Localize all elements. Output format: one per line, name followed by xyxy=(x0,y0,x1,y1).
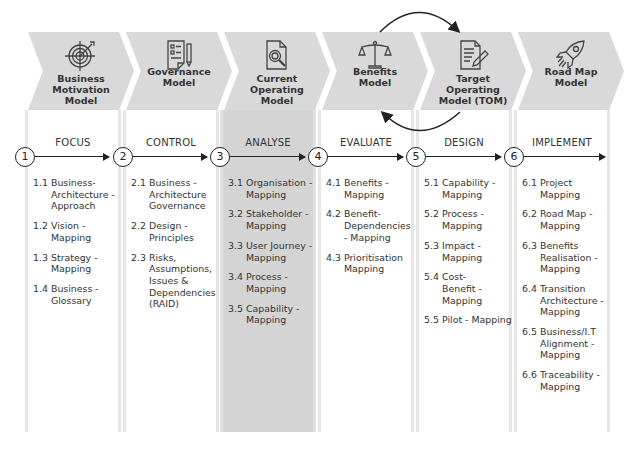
item-number: 4.3 xyxy=(326,252,344,275)
step-number-circle: 1 xyxy=(15,147,35,167)
item-number: 2.2 xyxy=(131,220,149,243)
item-list-control: 2.1Business - Architecture Governance 2.… xyxy=(131,177,221,318)
item-text: Organisation - Mapping xyxy=(246,177,318,200)
item-number: 5.2 xyxy=(424,208,442,231)
step-number-circle: 4 xyxy=(308,147,328,167)
flow-arrow xyxy=(35,156,109,157)
flow-arrow xyxy=(524,156,605,157)
list-item: 1.4Business - Glossary xyxy=(33,283,123,306)
list-item: 3.4Process - Mapping xyxy=(228,271,318,294)
stage-label-implement: IMPLEMENT xyxy=(514,137,610,148)
item-text: Transition Architecture - Mapping xyxy=(540,283,612,318)
item-number: 6.5 xyxy=(522,326,540,361)
list-item: 5.3Impact - Mapping xyxy=(424,240,514,263)
item-number: 6.3 xyxy=(522,240,540,275)
item-number: 1.4 xyxy=(33,283,51,306)
item-text: Impact - Mapping xyxy=(442,240,514,263)
item-list-focus: 1.1Business-Architecture - Approach 1.2V… xyxy=(33,177,123,314)
item-text: Traceability - Mapping xyxy=(540,369,612,392)
stage-label-analyse: ANALYSE xyxy=(220,137,316,148)
item-text: Business-Architecture - Approach xyxy=(51,177,123,212)
item-list-design: 5.1Capability - Mapping 5.2Process - Map… xyxy=(424,177,514,334)
item-list-analyse: 3.1Organisation - Mapping 3.2Stakeholder… xyxy=(228,177,318,334)
flow-arrow xyxy=(133,156,207,157)
list-item: 1.1Business-Architecture - Approach xyxy=(33,177,123,212)
framework-diagram: Business Motivation Model Governance Mod… xyxy=(0,0,629,454)
item-text: Prioritisation Mapping xyxy=(344,252,416,275)
list-item: 6.3Benefits Realisation - Mapping xyxy=(522,240,612,275)
stage-label-design: DESIGN xyxy=(416,137,512,148)
item-text: Risks, Assumptions, Issues & Dependencie… xyxy=(149,252,221,311)
item-text: Road Map - Mapping xyxy=(540,208,612,231)
list-item: 3.3User Journey - Mapping xyxy=(228,240,318,263)
list-item: 6.5Business/I.T Alignment - Mapping xyxy=(522,326,612,361)
list-item: 6.4Transition Architecture - Mapping xyxy=(522,283,612,318)
flow-arrow xyxy=(230,156,305,157)
item-number: 5.5 xyxy=(424,314,442,326)
step-number-circle: 3 xyxy=(210,147,230,167)
item-text: Process - Mapping xyxy=(442,208,514,231)
item-list-implement: 6.1Project Mapping 6.2Road Map - Mapping… xyxy=(522,177,612,401)
list-item: 6.1Project Mapping xyxy=(522,177,612,200)
flow-arrow xyxy=(328,156,403,157)
list-item: 2.3Risks, Assumptions, Issues & Dependen… xyxy=(131,252,221,311)
item-text: Capability - Mapping xyxy=(246,303,318,326)
list-item: 2.2Design - Principles xyxy=(131,220,221,243)
stage-label-control: CONTROL xyxy=(123,137,219,148)
item-number: 5.4 xyxy=(424,271,442,306)
step-number-circle: 6 xyxy=(504,147,524,167)
item-number: 3.2 xyxy=(228,208,246,231)
item-number: 4.1 xyxy=(326,177,344,200)
item-number: 3.3 xyxy=(228,240,246,263)
item-number: 1.2 xyxy=(33,220,51,243)
list-item: 4.3Prioritisation Mapping xyxy=(326,252,416,275)
stage-label-evaluate: EVALUATE xyxy=(318,137,414,148)
item-text: Business - Glossary xyxy=(51,283,123,306)
item-text: Benefit-Dependencies - Mapping xyxy=(344,208,416,243)
list-item: 6.6Traceability - Mapping xyxy=(522,369,612,392)
stage-label-focus: FOCUS xyxy=(25,137,121,148)
item-number: 4.2 xyxy=(326,208,344,243)
item-text: Business/I.T Alignment - Mapping xyxy=(540,326,612,361)
item-number: 3.4 xyxy=(228,271,246,294)
item-number: 1.1 xyxy=(33,177,51,212)
list-item: 5.1Capability - Mapping xyxy=(424,177,514,200)
item-text: Project Mapping xyxy=(540,177,612,200)
item-text: Benefits Realisation - Mapping xyxy=(540,240,612,275)
item-number: 5.1 xyxy=(424,177,442,200)
step-number-circle: 5 xyxy=(406,147,426,167)
item-number: 3.1 xyxy=(228,177,246,200)
list-item: 1.3Strategy - Mapping xyxy=(33,252,123,275)
item-text: Benefits - Mapping xyxy=(344,177,416,200)
list-item: 2.1Business - Architecture Governance xyxy=(131,177,221,212)
item-number: 1.3 xyxy=(33,252,51,275)
item-text: User Journey - Mapping xyxy=(246,240,318,263)
flow-arrow xyxy=(426,156,501,157)
item-number: 6.1 xyxy=(522,177,540,200)
list-item: 5.2Process - Mapping xyxy=(424,208,514,231)
step-number-circle: 2 xyxy=(113,147,133,167)
list-item: 3.1Organisation - Mapping xyxy=(228,177,318,200)
item-number: 2.3 xyxy=(131,252,149,311)
list-item: 3.2Stakeholder - Mapping xyxy=(228,208,318,231)
item-number: 3.5 xyxy=(228,303,246,326)
item-list-evaluate: 4.1Benefits - Mapping 4.2Benefit-Depende… xyxy=(326,177,416,283)
item-number: 5.3 xyxy=(424,240,442,263)
item-text: Design - Principles xyxy=(149,220,221,243)
list-item: 4.2Benefit-Dependencies - Mapping xyxy=(326,208,416,243)
item-number: 6.6 xyxy=(522,369,540,392)
item-text: Pilot - Mapping xyxy=(442,314,514,326)
item-text: Process - Mapping xyxy=(246,271,318,294)
list-item: 4.1Benefits - Mapping xyxy=(326,177,416,200)
item-text: Capability - Mapping xyxy=(442,177,514,200)
list-item: 6.2Road Map - Mapping xyxy=(522,208,612,231)
item-text: Strategy - Mapping xyxy=(51,252,123,275)
list-item: 5.5Pilot - Mapping xyxy=(424,314,514,326)
item-number: 6.4 xyxy=(522,283,540,318)
item-text: Business - Architecture Governance xyxy=(149,177,221,212)
list-item: 5.4Cost-Benefit - Mapping xyxy=(424,271,490,306)
item-text: Stakeholder - Mapping xyxy=(246,208,318,231)
item-text: Vision - Mapping xyxy=(51,220,123,243)
list-item: 1.2Vision - Mapping xyxy=(33,220,123,243)
item-number: 2.1 xyxy=(131,177,149,212)
